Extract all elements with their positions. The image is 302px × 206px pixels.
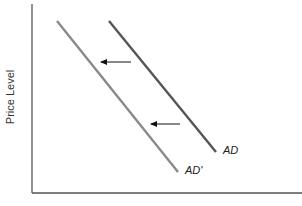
ad-label: AD: [223, 144, 238, 156]
ad-prime-label: AD': [185, 164, 202, 176]
y-axis-label: Price Level: [3, 96, 17, 97]
y-axis-label-text: Price Level: [4, 69, 16, 123]
ad-curve: [109, 21, 216, 152]
chart-canvas: [0, 0, 302, 206]
ad-prime-curve: [57, 21, 178, 172]
